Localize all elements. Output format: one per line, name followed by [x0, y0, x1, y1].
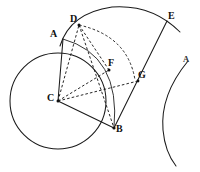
- arc-A-F-B: [63, 39, 115, 128]
- label-point-F: F: [108, 58, 114, 68]
- point-dot-F: [108, 69, 111, 72]
- point-dot-G: [137, 80, 140, 83]
- label-point-D: D: [70, 14, 77, 24]
- point-dot-C: [57, 100, 60, 103]
- geometry-figure: A D E F G C B A: [0, 0, 200, 172]
- arc-D-E-outer: [60, 7, 180, 46]
- arc-right-A: [163, 61, 188, 166]
- label-point-G: G: [138, 70, 146, 80]
- label-point-A-right: A: [183, 55, 189, 64]
- geometry-canvas: [0, 0, 200, 172]
- label-point-C: C: [47, 93, 54, 103]
- point-dot-D: [78, 24, 81, 27]
- label-point-A: A: [50, 29, 57, 39]
- label-point-B: B: [116, 124, 123, 134]
- label-point-E: E: [168, 11, 175, 21]
- segment-C-G: [58, 81, 138, 101]
- segment-C-F: [58, 70, 109, 101]
